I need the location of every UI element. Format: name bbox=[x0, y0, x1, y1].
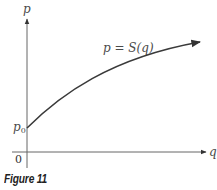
figure-caption: Figure 11 bbox=[4, 172, 47, 186]
curve-label: p = S(q) bbox=[103, 41, 154, 55]
y-axis-label: p bbox=[23, 2, 31, 16]
p0-label: p0 bbox=[13, 120, 26, 135]
supply-curve-figure: p q p = S(q) 0 p0 bbox=[0, 0, 217, 190]
x-axis-label: q bbox=[209, 145, 217, 159]
origin-label: 0 bbox=[15, 153, 22, 166]
